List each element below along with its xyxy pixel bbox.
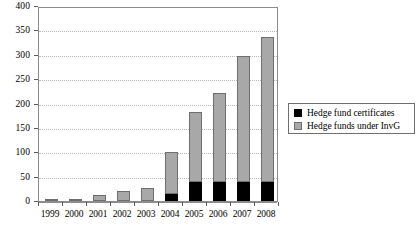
x-tick-mark-0 — [38, 202, 39, 206]
x-tick-mark-10 — [278, 202, 279, 206]
plot-area — [38, 7, 278, 202]
y-tick-label-0: 0 — [0, 197, 30, 207]
bar-segment-certificates — [261, 182, 274, 202]
bar-segment-certificates — [237, 182, 250, 202]
bar-segment-under-invg — [141, 188, 154, 201]
y-tick-label-200: 200 — [0, 100, 30, 110]
legend-label-certificates: Hedge fund certificates — [307, 108, 394, 118]
chart-legend: Hedge fund certificates Hedge funds unde… — [288, 103, 415, 134]
x-tick-mark-5 — [158, 202, 159, 206]
x-tick-mark-7 — [206, 202, 207, 206]
bar-segment-under-invg — [45, 199, 58, 201]
x-tick-mark-8 — [230, 202, 231, 206]
legend-item-under-invg: Hedge funds under InvG — [294, 120, 410, 132]
bar-segment-certificates — [189, 182, 202, 202]
bar-segment-under-invg — [93, 195, 106, 201]
x-tick-mark-1 — [62, 202, 63, 206]
legend-label-under-invg: Hedge funds under InvG — [307, 121, 400, 131]
x-tick-mark-9 — [254, 202, 255, 206]
bar-segment-under-invg — [237, 56, 250, 182]
y-tick-label-300: 300 — [0, 51, 30, 61]
x-tick-mark-4 — [134, 202, 135, 206]
y-tick-label-150: 150 — [0, 124, 30, 134]
gridline-350 — [39, 31, 277, 32]
x-tick-mark-6 — [182, 202, 183, 206]
bar-segment-under-invg — [165, 152, 178, 193]
y-tick-label-250: 250 — [0, 75, 30, 85]
bar-segment-certificates — [213, 182, 226, 202]
x-tick-mark-2 — [86, 202, 87, 206]
bar-segment-under-invg — [117, 191, 130, 201]
y-tick-label-350: 350 — [0, 26, 30, 36]
bar-segment-under-invg — [189, 112, 202, 182]
x-tick-label-2008: 2008 — [249, 209, 283, 219]
hedge-fund-stacked-bar-chart: 050100150200250300350400 199920002001200… — [0, 0, 417, 238]
bar-segment-under-invg — [213, 93, 226, 182]
x-tick-mark-3 — [110, 202, 111, 206]
bar-segment-certificates — [165, 194, 178, 201]
y-tick-label-400: 400 — [0, 2, 30, 12]
legend-item-certificates: Hedge fund certificates — [294, 107, 410, 119]
y-tick-label-50: 50 — [0, 173, 30, 183]
gray-square-swatch-icon — [294, 122, 302, 130]
y-tick-label-100: 100 — [0, 148, 30, 158]
bar-segment-under-invg — [261, 37, 274, 182]
bar-segment-under-invg — [69, 199, 82, 201]
black-square-swatch-icon — [294, 109, 302, 117]
